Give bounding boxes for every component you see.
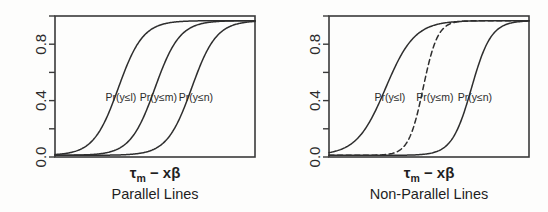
y-tick-label: 0.0 xyxy=(306,147,323,168)
y-tick-label: 0.8 xyxy=(306,34,323,55)
curve-label: Pr(y≤m) xyxy=(416,91,453,103)
figure-container: 0.00.40.8Pr(y≤l)Pr(y≤m)Pr(y≤n)τm − xβPar… xyxy=(0,0,548,212)
chart-panel-non-parallel: 0.00.40.8Pr(y≤l)Pr(y≤m)Pr(y≤n)τm − xβNon… xyxy=(274,0,548,212)
plot-area-non-parallel: 0.00.40.8Pr(y≤l)Pr(y≤m)Pr(y≤n)τm − xβNon… xyxy=(306,16,529,202)
chart-svg-non-parallel: 0.00.40.8Pr(y≤l)Pr(y≤m)Pr(y≤n)τm − xβNon… xyxy=(274,0,548,212)
curve-label: Pr(y≤n) xyxy=(458,91,492,103)
panel-title: Parallel Lines xyxy=(111,186,198,202)
y-tick-label: 0.4 xyxy=(32,90,49,111)
x-axis-label: τm − xβ xyxy=(404,164,455,184)
curve-label: Pr(y≤l) xyxy=(105,91,136,103)
x-axis-label: τm − xβ xyxy=(130,164,181,184)
curve-Pr(y≤l) xyxy=(329,21,529,153)
curve-label: Pr(y≤m) xyxy=(140,91,177,103)
y-tick-label: 0.8 xyxy=(32,34,49,55)
panel-title: Non-Parallel Lines xyxy=(370,186,488,202)
curve-Pr(y≤m) xyxy=(55,21,255,156)
chart-svg-parallel: 0.00.40.8Pr(y≤l)Pr(y≤m)Pr(y≤n)τm − xβPar… xyxy=(0,0,274,212)
y-tick-label: 0.0 xyxy=(32,147,49,168)
chart-panel-parallel: 0.00.40.8Pr(y≤l)Pr(y≤m)Pr(y≤n)τm − xβPar… xyxy=(0,0,274,212)
curve-label: Pr(y≤n) xyxy=(179,91,213,103)
y-tick-label: 0.4 xyxy=(306,90,323,111)
curve-label: Pr(y≤l) xyxy=(374,91,405,103)
plot-area-parallel: 0.00.40.8Pr(y≤l)Pr(y≤m)Pr(y≤n)τm − xβPar… xyxy=(32,16,255,202)
curve-Pr(y≤n) xyxy=(329,21,529,155)
curve-Pr(y≤m) xyxy=(329,21,529,156)
